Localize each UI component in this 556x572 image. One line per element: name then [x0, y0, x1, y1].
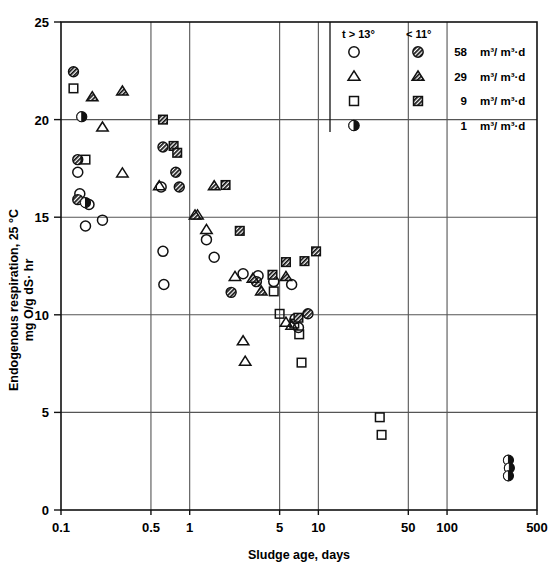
data-point — [235, 227, 244, 236]
y-tick-label: 15 — [35, 210, 49, 225]
legend-marker-cold — [413, 47, 423, 57]
data-point — [68, 67, 78, 77]
series-1 — [68, 67, 312, 319]
legend-unit: m³/ m³·d — [480, 71, 525, 83]
x-tick-label: 500 — [526, 520, 548, 535]
data-point — [201, 224, 212, 233]
data-point — [268, 270, 277, 279]
data-point — [158, 246, 168, 256]
data-point — [377, 431, 386, 440]
y-tick-label: 5 — [42, 405, 49, 420]
legend-value: 9 — [461, 95, 467, 107]
series-4 — [69, 84, 386, 439]
chart-canvas: 0.10.5151050100500 0510152025 t > 13°< 1… — [0, 0, 556, 572]
legend-header-cold: < 11° — [406, 28, 432, 40]
x-axis-title: Sludge age, days — [248, 548, 350, 562]
chart-legend: t > 13°< 11°58m³/ m³·d29m³/ m³·d9m³/ m³·… — [330, 22, 525, 132]
legend-marker-warm — [349, 47, 359, 57]
x-tick-label: 1 — [186, 520, 193, 535]
data-point — [87, 92, 98, 101]
data-point — [174, 182, 184, 192]
data-point — [208, 181, 219, 190]
data-point — [312, 247, 321, 256]
series-5 — [159, 115, 321, 322]
data-point — [158, 142, 168, 152]
x-tick-label: 0.1 — [52, 520, 70, 535]
x-tick-label: 0.5 — [142, 520, 160, 535]
data-point — [159, 280, 169, 290]
legend-unit: m³/ m³·d — [480, 95, 525, 107]
data-point — [201, 235, 211, 245]
legend-unit: m³/ m³·d — [480, 120, 525, 132]
data-point — [173, 148, 182, 157]
legend-value: 58 — [454, 46, 467, 58]
data-point — [159, 115, 168, 124]
legend-marker-warm — [349, 120, 359, 130]
x-tick-label: 100 — [436, 520, 458, 535]
data-point — [297, 358, 306, 367]
data-point — [300, 257, 309, 266]
x-tick-label: 50 — [401, 520, 415, 535]
data-point — [97, 215, 107, 225]
data-point — [77, 112, 87, 122]
legend-marker-warm — [348, 71, 360, 80]
legend-header-warm: t > 13° — [342, 28, 375, 40]
legend-unit: m³/ m³·d — [480, 46, 525, 58]
data-point — [80, 198, 90, 208]
x-tick-labels: 0.10.5151050100500 — [52, 520, 548, 535]
data-point — [69, 84, 78, 93]
y-tick-label: 10 — [35, 308, 49, 323]
data-point — [117, 86, 128, 95]
data-point — [294, 313, 303, 322]
legend-marker-warm — [350, 97, 359, 106]
legend-marker-cold — [412, 71, 424, 80]
y-axis-title-line1: Endogenous respiration, 25 °C — [7, 209, 21, 391]
data-point — [80, 221, 90, 231]
data-point — [237, 336, 248, 345]
series-3 — [87, 86, 292, 295]
legend-value: 1 — [461, 120, 468, 132]
legend-value: 29 — [454, 71, 467, 83]
legend-marker-cold — [414, 97, 423, 106]
endogenous-respiration-scatter-figure: 0.10.5151050100500 0510152025 t > 13°< 1… — [0, 0, 556, 572]
y-axis-title-line2: mg O/g dS· hr — [22, 259, 36, 342]
y-tick-labels: 0510152025 — [35, 15, 49, 518]
data-point — [303, 309, 313, 319]
data-point — [269, 287, 278, 296]
data-point — [117, 168, 128, 177]
data-point — [282, 258, 291, 267]
data-point — [171, 167, 181, 177]
data-point — [221, 181, 230, 190]
data-point — [280, 271, 291, 280]
series-0 — [73, 167, 304, 332]
data-point — [97, 122, 108, 131]
series-6 — [77, 112, 515, 481]
data-point — [73, 167, 83, 177]
y-tick-label: 0 — [42, 503, 49, 518]
data-point — [503, 471, 513, 481]
series-2 — [97, 122, 298, 365]
x-tick-label: 10 — [311, 520, 325, 535]
y-tick-label: 25 — [35, 15, 49, 30]
data-point — [256, 286, 267, 295]
data-point — [226, 287, 236, 297]
data-point — [375, 413, 384, 422]
data-point — [209, 252, 219, 262]
x-tick-label: 5 — [276, 520, 283, 535]
data-point — [239, 356, 250, 365]
y-tick-label: 20 — [35, 113, 49, 128]
